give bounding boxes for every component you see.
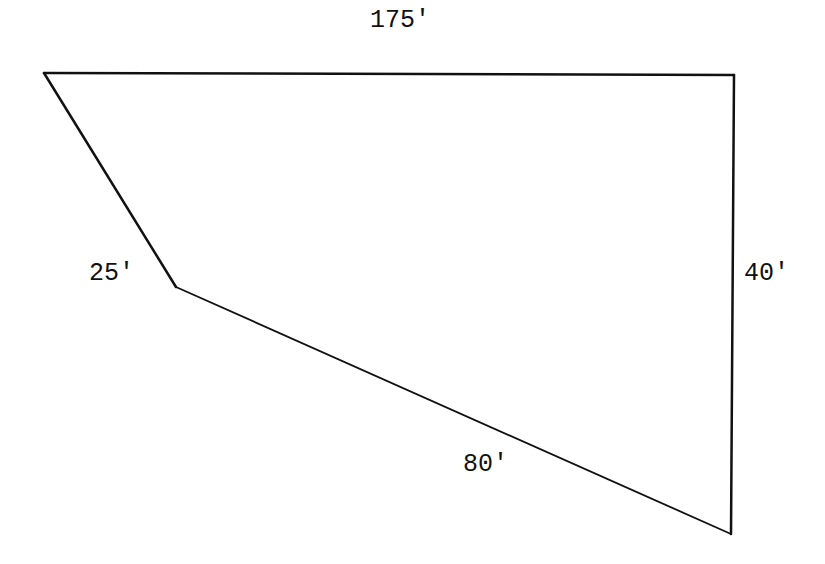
side-label-top: 175' xyxy=(370,8,430,33)
side-label-right: 40' xyxy=(744,261,789,286)
side-top xyxy=(44,73,734,75)
side-label-left: 25' xyxy=(89,261,134,286)
side-bottom xyxy=(176,287,731,534)
side-left xyxy=(44,73,176,287)
side-label-bottom: 80' xyxy=(463,452,508,477)
side-right xyxy=(731,75,734,534)
